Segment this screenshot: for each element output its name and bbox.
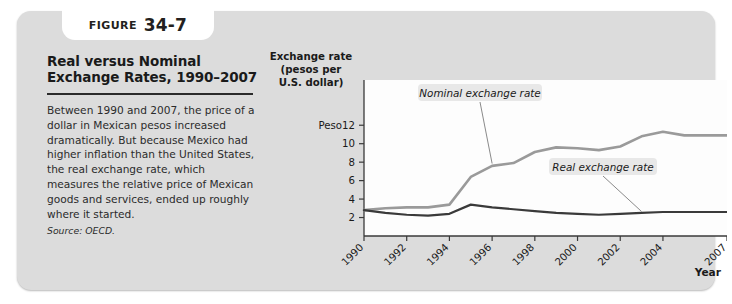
x-tick-label: 1998 [510, 242, 536, 268]
y-tick-label: 8 [349, 157, 355, 168]
figure-badge-number: 34-7 [144, 15, 187, 35]
figure-caption: Between 1990 and 2007, the price of a do… [47, 103, 259, 222]
y-tick-label: 4 [349, 194, 355, 205]
y-tick-label: 2 [349, 212, 355, 223]
title-divider [47, 93, 253, 95]
figure-source: Source: OECD. [47, 225, 259, 236]
chart-area: Exchange rate (pesos per U.S. dollar) Ye… [265, 47, 727, 287]
x-tick-label: 2000 [553, 242, 579, 268]
line-chart-svg: 246810Peso121990199219941996199820002002… [265, 47, 727, 287]
x-tick-label: 1996 [467, 242, 493, 268]
figure-title: Real versus Nominal Exchange Rates, 1990… [47, 53, 259, 86]
figure-badge: FIGURE 34-7 [62, 10, 214, 40]
y-tick-label: 10 [342, 138, 355, 149]
x-tick-label: 1992 [382, 242, 408, 268]
x-tick-label: 1994 [425, 242, 451, 268]
x-tick-label: 1990 [339, 242, 365, 268]
x-tick-label: 2007 [702, 242, 727, 268]
figure-panel-root: FIGURE 34-7 Real versus Nominal Exchange… [0, 0, 732, 304]
y-tick-label: 6 [349, 175, 355, 186]
figure-text-column: Real versus Nominal Exchange Rates, 1990… [47, 53, 259, 236]
x-tick-label: 2004 [638, 242, 664, 268]
annotation-label-real: Real exchange rate [552, 161, 653, 173]
figure-panel: FIGURE 34-7 Real versus Nominal Exchange… [17, 11, 715, 290]
y-tick-label: Peso12 [318, 120, 355, 131]
x-tick-label: 2002 [596, 242, 622, 268]
annotation-label-nominal: Nominal exchange rate [419, 87, 540, 99]
figure-badge-word: FIGURE [89, 19, 137, 32]
